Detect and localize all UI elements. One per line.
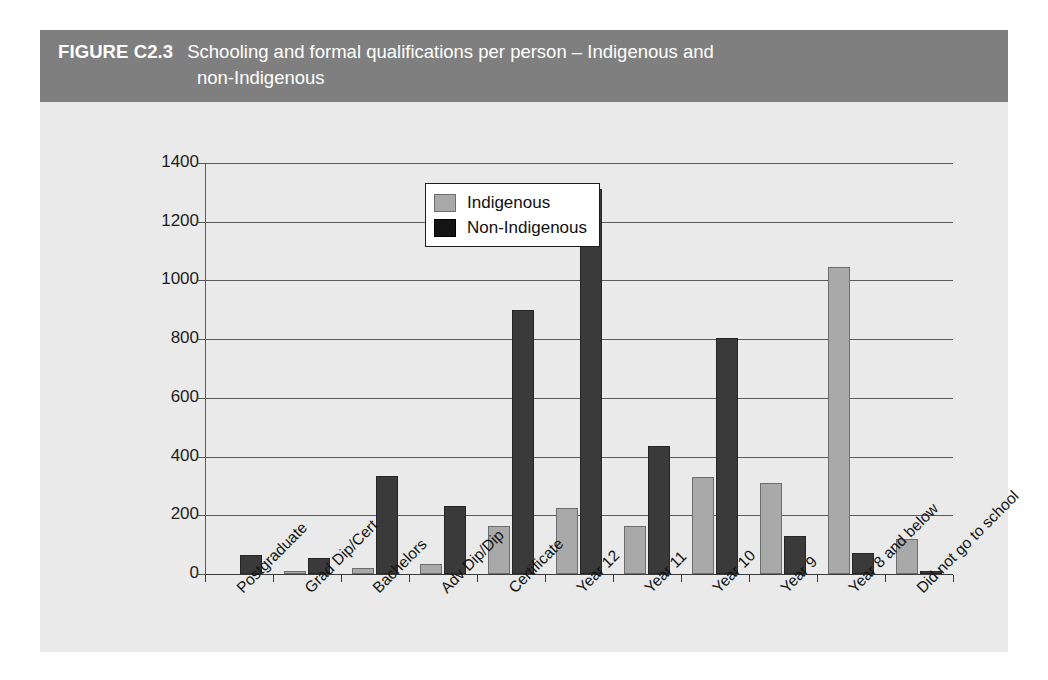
- x-tick-mark: [409, 575, 410, 582]
- y-tick-mark: [198, 398, 205, 399]
- x-tick-mark: [205, 575, 206, 582]
- legend-label: Non-Indigenous: [467, 218, 587, 238]
- y-tick-mark: [198, 163, 205, 164]
- bar: [580, 189, 602, 574]
- x-tick-mark: [749, 575, 750, 582]
- y-tick-mark: [198, 222, 205, 223]
- y-tick-label: 400: [79, 446, 199, 466]
- x-tick-mark: [273, 575, 274, 582]
- y-tick-label: 600: [79, 387, 199, 407]
- chart-legend: Indigenous Non-Indigenous: [425, 183, 600, 247]
- bar: [284, 571, 306, 574]
- x-tick-mark: [885, 575, 886, 582]
- plot-frame: 0200400600800100012001400 Indigenous Non…: [205, 163, 953, 575]
- bar: [760, 483, 782, 574]
- bar-group: [624, 162, 670, 574]
- bar: [648, 446, 670, 574]
- bar-group: [692, 162, 738, 574]
- y-tick-mark: [198, 515, 205, 516]
- legend-item: Indigenous: [434, 190, 587, 215]
- y-axis-line: [205, 163, 206, 575]
- bar: [420, 564, 442, 574]
- y-tick-label: 800: [79, 328, 199, 348]
- bar-group: [284, 162, 330, 574]
- bar-group: [828, 162, 874, 574]
- bar: [828, 267, 850, 574]
- bar: [352, 568, 374, 574]
- bar-group: [352, 162, 398, 574]
- y-tick-label: 1200: [79, 211, 199, 231]
- x-tick-mark: [545, 575, 546, 582]
- y-tick-label: 0: [79, 563, 199, 583]
- x-tick-mark: [613, 575, 614, 582]
- bar-group: [216, 162, 262, 574]
- legend-swatch-icon: [434, 219, 456, 237]
- legend-item: Non-Indigenous: [434, 215, 587, 240]
- x-tick-mark: [953, 575, 954, 582]
- x-tick-mark: [817, 575, 818, 582]
- x-tick-mark: [477, 575, 478, 582]
- bar: [512, 310, 534, 574]
- y-tick-mark: [198, 280, 205, 281]
- bar: [716, 338, 738, 574]
- bar-group: [760, 162, 806, 574]
- bar: [692, 477, 714, 574]
- figure-title-band: FIGURE C2.3Schooling and formal qualific…: [40, 30, 1008, 102]
- y-tick-mark: [198, 574, 205, 575]
- y-tick-label: 1400: [79, 152, 199, 172]
- y-tick-mark: [198, 339, 205, 340]
- figure-number: FIGURE C2.3: [58, 41, 173, 62]
- x-tick-mark: [341, 575, 342, 582]
- figure-title-text-1: Schooling and formal qualifications per …: [187, 41, 714, 62]
- bar: [624, 526, 646, 574]
- legend-label: Indigenous: [467, 193, 550, 213]
- chart-area: 0200400600800100012001400 Indigenous Non…: [40, 102, 1008, 652]
- y-tick-label: 200: [79, 504, 199, 524]
- x-tick-mark: [681, 575, 682, 582]
- figure-title-line-1: FIGURE C2.3Schooling and formal qualific…: [58, 39, 990, 65]
- figure-title-line-2: non-Indigenous: [58, 65, 990, 91]
- figure-panel: FIGURE C2.3Schooling and formal qualific…: [40, 30, 1008, 652]
- y-tick-mark: [198, 457, 205, 458]
- y-tick-label: 1000: [79, 269, 199, 289]
- legend-swatch-icon: [434, 194, 456, 212]
